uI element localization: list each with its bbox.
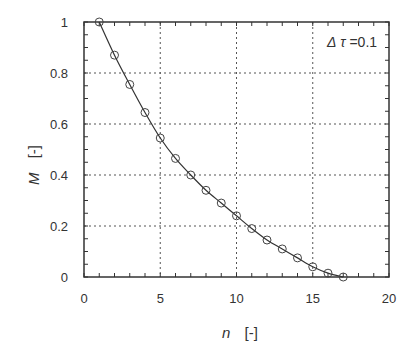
y-tick-label: 0.8 — [50, 66, 68, 81]
x-tick-label: 10 — [229, 291, 243, 306]
data-markers — [95, 18, 347, 281]
y-tick-label: 0.4 — [50, 168, 68, 183]
x-tick-label: 0 — [80, 291, 87, 306]
y-tick-label: 1 — [61, 15, 68, 30]
x-tick-label: 5 — [157, 291, 164, 306]
data-line — [99, 22, 343, 277]
y-tick-labels: 00.20.40.60.81 — [50, 15, 68, 285]
annotation: Δ τ =0.1 — [326, 34, 377, 50]
x-tick-label: 15 — [306, 291, 320, 306]
x-tick-labels: 05101520 — [80, 291, 396, 306]
y-tick-label: 0.6 — [50, 117, 68, 132]
y-axis-label: M [-] — [25, 145, 42, 185]
y-tick-label: 0.2 — [50, 219, 68, 234]
chart: 05101520 00.20.40.60.81 Δ τ =0.1 n [-] M… — [0, 0, 414, 358]
y-tick-label: 0 — [61, 270, 68, 285]
x-axis-label: n [-] — [222, 324, 258, 341]
grid-lines — [84, 22, 389, 277]
x-tick-label: 20 — [382, 291, 396, 306]
